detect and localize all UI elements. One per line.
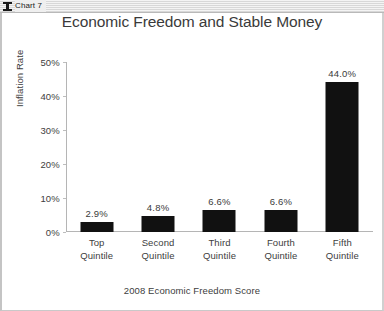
bar[interactable] [80, 222, 113, 232]
bar-slot: 6.6% [250, 62, 311, 232]
y-tick-label: 40% [40, 91, 60, 102]
x-category-label: SecondQuintile [127, 236, 188, 272]
x-category-line: Top [66, 236, 127, 249]
window-title: Chart 7 [15, 0, 46, 12]
x-category-line: Second [127, 236, 188, 249]
y-tick-label: 0% [46, 227, 60, 238]
x-category-line: Third [189, 236, 250, 249]
x-category-line: Quintile [66, 249, 127, 262]
bar[interactable] [142, 216, 175, 232]
y-axis-label: Inflation Rate [14, 91, 25, 107]
y-tick-label: 10% [40, 193, 60, 204]
y-tick-label: 50% [40, 57, 60, 68]
y-tick-label: 20% [40, 159, 60, 170]
chart-window: Chart 7 Economic Freedom and Stable Mone… [0, 0, 384, 311]
x-category-line: Quintile [127, 249, 188, 262]
x-category-line: Fourth [250, 236, 311, 249]
chart-window-icon [3, 2, 12, 11]
x-category-label: TopQuintile [66, 236, 127, 272]
y-tick-label: 30% [40, 125, 60, 136]
x-category-label: FifthQuintile [312, 236, 373, 272]
bar[interactable] [326, 82, 359, 232]
bar-slot: 6.6% [189, 62, 250, 232]
bar-value-label: 6.6% [208, 196, 230, 207]
plot-area: 0%10%20%30%40%50% 2.9%4.8%6.6%6.6%44.0% [66, 62, 373, 232]
bar[interactable] [203, 210, 236, 232]
x-category-line: Quintile [312, 249, 373, 262]
bar-slot: 4.8% [127, 62, 188, 232]
bar-value-label: 6.6% [270, 196, 292, 207]
x-category-line: Quintile [189, 249, 250, 262]
x-category-label: ThirdQuintile [189, 236, 250, 272]
window-titlebar[interactable]: Chart 7 [0, 0, 384, 13]
bar-value-label: 2.9% [85, 208, 107, 219]
x-axis-categories: TopQuintileSecondQuintileThirdQuintileFo… [66, 236, 373, 272]
x-category-line: Fifth [312, 236, 373, 249]
bar[interactable] [264, 210, 297, 232]
chart-title: Economic Freedom and Stable Money [0, 13, 384, 31]
bar-series: 2.9%4.8%6.6%6.6%44.0% [66, 62, 373, 232]
bar-value-label: 4.8% [147, 202, 169, 213]
x-category-line: Quintile [250, 249, 311, 262]
bar-value-label: 44.0% [328, 68, 356, 79]
x-category-label: FourthQuintile [250, 236, 311, 272]
x-axis-label: 2008 Economic Freedom Score [0, 285, 384, 296]
y-tick-mark [63, 232, 66, 233]
bar-slot: 2.9% [66, 62, 127, 232]
bar-slot: 44.0% [312, 62, 373, 232]
